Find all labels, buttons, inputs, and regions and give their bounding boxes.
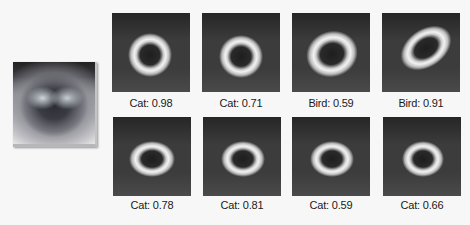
heatmap-label: Cat: 0.78: [107, 199, 197, 211]
heatmap-tile-bottom-4: [383, 117, 461, 196]
activation-ring: [221, 141, 265, 177]
heatmap-tile-bottom-1: [113, 117, 191, 196]
heatmap-label: Bird: 0.59: [286, 97, 376, 109]
activation-ring: [219, 35, 263, 78]
heatmap-label: Cat: 0.66: [377, 199, 467, 211]
input-cat-image: [13, 62, 97, 147]
heatmap-label: Cat: 0.71: [196, 97, 286, 109]
heatmap-label: Cat: 0.81: [197, 199, 287, 211]
heatmap-tile-bottom-3: [292, 117, 370, 196]
heatmap-tile-top-4: [382, 13, 460, 92]
heatmap-tile-top-2: [202, 13, 280, 92]
heatmap-tile-top-1: [112, 13, 190, 92]
heatmap-tile-top-3: [292, 13, 370, 92]
heatmap-label: Cat: 0.98: [106, 97, 196, 109]
heatmap-label: Bird: 0.91: [376, 97, 466, 109]
activation-ring: [128, 33, 172, 77]
activation-ring: [310, 141, 354, 177]
activation-ring: [402, 141, 444, 177]
heatmap-tile-bottom-2: [203, 117, 281, 196]
activation-ring: [129, 141, 175, 177]
heatmap-label: Cat: 0.59: [286, 199, 376, 211]
